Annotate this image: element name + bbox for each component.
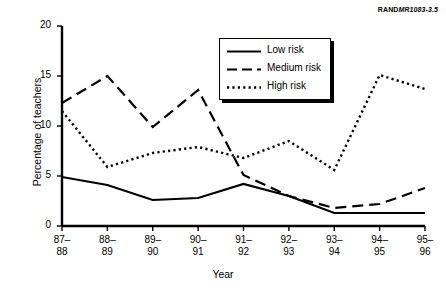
y-tick-label: 20: [21, 20, 51, 30]
series-line-low-risk: [62, 177, 425, 213]
y-tick-label: 0: [21, 220, 51, 230]
legend-item-high-risk: High risk: [227, 79, 327, 95]
rand-brand-label: RAND: [378, 6, 399, 13]
x-tick-label: 95–96: [397, 234, 446, 258]
legend-label-low-risk: Low risk: [267, 44, 304, 55]
legend-item-low-risk: Low risk: [227, 43, 327, 59]
y-tick-label: 15: [21, 70, 51, 80]
y-tick-label: 10: [21, 120, 51, 130]
y-axis-title: Percentage of teachers: [31, 32, 43, 232]
legend-item-medium-risk: Medium risk: [227, 61, 327, 77]
legend-label-medium-risk: Medium risk: [267, 62, 321, 73]
legend-label-high-risk: High risk: [267, 80, 306, 91]
rand-document-id: MR1083-3.5: [398, 6, 438, 13]
chart-legend: Low risk Medium risk High risk: [219, 38, 331, 100]
legend-swatch-medium-risk: [227, 68, 261, 71]
y-tick-label: 5: [21, 170, 51, 180]
rand-source-credit: RANDMR1083-3.5: [378, 6, 438, 13]
chart-figure: RANDMR1083-3.5 Percentage of teachers Ye…: [0, 0, 446, 290]
legend-swatch-low-risk: [227, 50, 261, 53]
x-axis-title: Year: [0, 268, 446, 280]
legend-swatch-high-risk: [227, 86, 261, 89]
